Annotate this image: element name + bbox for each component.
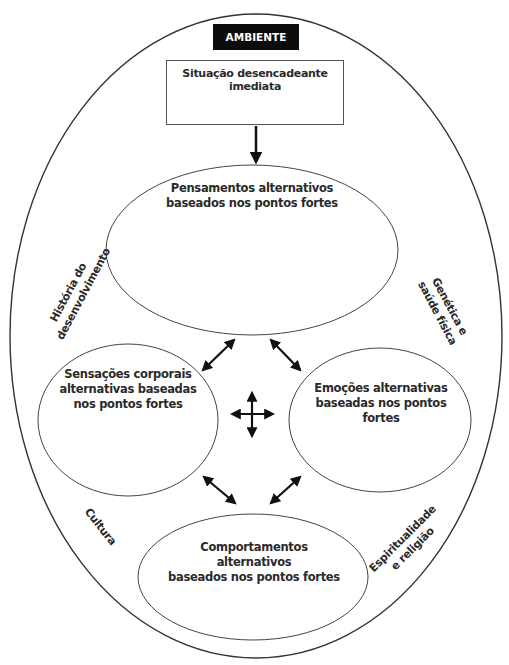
thoughts-label-line1: Pensamentos alternativos [150, 181, 354, 196]
behaviors-line2: baseados nos pontos fortes [163, 570, 345, 585]
emotions-line1: Emoções alternativas [300, 381, 462, 396]
thoughts-label: Pensamentos alternativos baseados nos po… [150, 181, 354, 211]
arrow-emotions-behaviors [271, 477, 300, 503]
thoughts-label-line2: baseados nos pontos fortes [150, 196, 354, 211]
arrow-thoughts-emotions [271, 340, 300, 370]
arrow-sensations-behaviors [204, 477, 235, 503]
arrow-thoughts-sensations [203, 340, 234, 370]
trigger-situation-box: Situação desencadeante imediata [166, 60, 344, 125]
body-sensations-label: Sensações corporais alternativas baseada… [58, 367, 198, 412]
behaviors-label: Comportamentos alternativos baseados nos… [163, 540, 345, 585]
emotions-label: Emoções alternativas baseadas nos pontos… [300, 381, 462, 426]
emotions-line2: baseadas nos pontos fortes [300, 396, 462, 426]
environment-label: AMBIENTE [213, 24, 299, 50]
body-sensations-line3: nos pontos fortes [58, 397, 198, 412]
body-sensations-line2: alternativas baseadas [58, 382, 198, 397]
behaviors-line1: Comportamentos alternativos [163, 540, 345, 570]
trigger-situation-label: Situação desencadeante imediata [167, 67, 343, 93]
body-sensations-line1: Sensações corporais [58, 367, 198, 382]
